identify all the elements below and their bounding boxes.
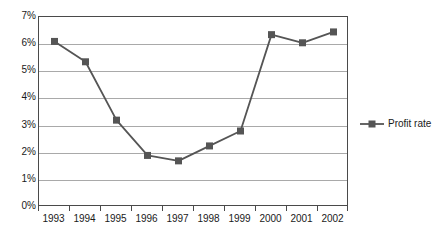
y-axis-tick-label: 5% bbox=[2, 65, 36, 75]
x-axis-tickmark bbox=[224, 206, 225, 211]
x-axis-tickmark bbox=[38, 206, 39, 211]
x-axis-tickmark bbox=[286, 206, 287, 211]
x-axis-tickmark bbox=[317, 206, 318, 211]
y-axis-tick-label: 7% bbox=[2, 11, 36, 21]
x-axis-tickmark bbox=[100, 206, 101, 211]
x-axis-tickmark bbox=[69, 206, 70, 211]
data-point-marker bbox=[175, 157, 182, 164]
legend-label: Profit rate bbox=[388, 118, 431, 129]
x-axis-tick-label: 1994 bbox=[73, 213, 95, 225]
data-point-marker bbox=[206, 142, 213, 149]
x-axis-tickmark bbox=[193, 206, 194, 211]
data-point-marker bbox=[144, 152, 151, 159]
y-axis-tick-label: 0% bbox=[2, 201, 36, 211]
series-line bbox=[55, 32, 334, 161]
x-axis-tick-label: 1998 bbox=[197, 213, 219, 225]
legend: Profit rate bbox=[360, 118, 431, 129]
x-axis-tickmark bbox=[255, 206, 256, 211]
data-point-marker bbox=[51, 38, 58, 45]
x-axis-tickmark bbox=[347, 206, 348, 211]
legend-marker-icon bbox=[360, 119, 384, 129]
x-axis-tick-label: 1996 bbox=[135, 213, 157, 225]
y-axis-tick-label: 2% bbox=[2, 147, 36, 157]
x-axis-tick-label: 1997 bbox=[166, 213, 188, 225]
data-point-marker bbox=[237, 128, 244, 135]
y-axis-tick-label: 4% bbox=[2, 92, 36, 102]
x-axis: 1993199419951996199719981999200020012002 bbox=[38, 213, 348, 229]
x-axis-tickmark bbox=[162, 206, 163, 211]
y-axis: 0%1%2%3%4%5%6%7% bbox=[0, 0, 36, 250]
x-axis-tick-label: 2000 bbox=[259, 213, 281, 225]
series-layer bbox=[39, 17, 349, 207]
x-axis-tick-label: 1995 bbox=[104, 213, 126, 225]
x-axis-tick-label: 1993 bbox=[42, 213, 64, 225]
y-axis-tick-label: 3% bbox=[2, 120, 36, 130]
profit-rate-line-chart: 0%1%2%3%4%5%6%7% 19931994199519961997199… bbox=[0, 0, 439, 250]
data-point-marker bbox=[113, 117, 120, 124]
x-axis-tickmarks bbox=[38, 206, 348, 211]
y-axis-tick-label: 1% bbox=[2, 174, 36, 184]
x-axis-tick-label: 2001 bbox=[290, 213, 312, 225]
plot-area bbox=[38, 16, 348, 206]
x-axis-tick-label: 1999 bbox=[228, 213, 250, 225]
x-axis-tick-label: 2002 bbox=[321, 213, 343, 225]
data-point-marker bbox=[268, 31, 275, 38]
y-axis-tick-label: 6% bbox=[2, 38, 36, 48]
x-axis-tickmark bbox=[131, 206, 132, 211]
data-point-marker bbox=[299, 39, 306, 46]
data-point-marker bbox=[82, 58, 89, 65]
data-point-marker bbox=[330, 28, 337, 35]
